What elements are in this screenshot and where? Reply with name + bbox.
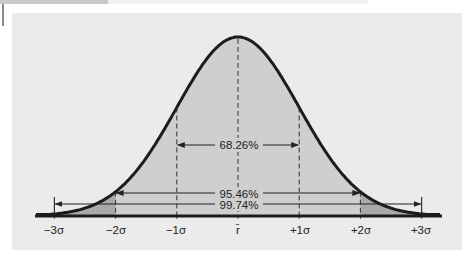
tick-label-minus-2-sigma: −2σ: [106, 224, 126, 236]
normal-distribution-chart: −3σ −2σ −1σ r̄ +1σ +2σ +3σ 68.26% 95.46%…: [0, 0, 476, 263]
tick-label-mean: r̄: [235, 224, 240, 236]
interval-label-68: 68.26%: [219, 139, 258, 151]
tick-label-plus-3-sigma: +3σ: [411, 224, 431, 236]
tick-label-plus-2-sigma: +2σ: [351, 224, 371, 236]
tick-label-plus-1-sigma: +1σ: [290, 224, 310, 236]
interval-label-99: 99.74%: [219, 199, 258, 211]
tick-label-minus-1-sigma: −1σ: [166, 224, 186, 236]
tick-label-minus-3-sigma: −3σ: [44, 224, 64, 236]
